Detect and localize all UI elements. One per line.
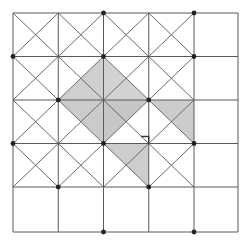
lattice-node-0 <box>101 11 106 16</box>
lattice-node-3 <box>101 54 106 59</box>
lattice-node-11 <box>146 185 151 190</box>
lattice-node-2 <box>11 54 16 59</box>
lattice-node-9 <box>192 141 197 146</box>
geometry-canvas <box>0 0 251 245</box>
lattice-node-7 <box>11 141 16 146</box>
lattice-node-1 <box>192 11 197 16</box>
lattice-node-10 <box>56 185 61 190</box>
lattice-node-4 <box>192 54 197 59</box>
lattice-node-6 <box>146 98 151 103</box>
lattice-node-12 <box>101 230 106 235</box>
figure-root <box>0 0 251 245</box>
lattice-node-8 <box>101 141 106 146</box>
lattice-node-5 <box>56 98 61 103</box>
lattice-node-13 <box>192 230 197 235</box>
